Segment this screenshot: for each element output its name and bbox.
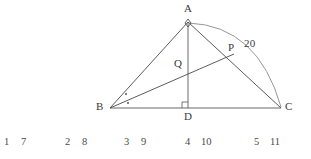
point-label-P: P (228, 42, 234, 53)
diagram-page: A B C D P Q 20 1 7 2 8 3 9 4 10 5 11 (0, 0, 311, 159)
number-item: 5 (254, 136, 259, 148)
number-item: 3 (124, 136, 129, 148)
equal-angle-dot-upper (125, 93, 127, 95)
vertex-label-D: D (184, 111, 192, 122)
arc-length-label: 20 (244, 38, 255, 49)
number-item: 1 (4, 136, 9, 148)
vertex-label-A: A (184, 3, 192, 14)
number-item: 4 (185, 136, 190, 148)
number-item: 8 (82, 136, 87, 148)
vertex-label-C: C (285, 101, 293, 112)
number-item: 9 (141, 136, 146, 148)
number-item: 11 (270, 136, 280, 148)
equal-angle-dot-lower (127, 102, 129, 104)
number-item: 2 (65, 136, 70, 148)
number-item: 7 (21, 136, 26, 148)
point-label-Q: Q (174, 58, 182, 69)
cevian-BP-line (110, 54, 234, 108)
bottom-number-row: 1 7 2 8 3 9 4 10 5 11 (0, 136, 311, 156)
right-angle-marker-at-D (182, 102, 188, 108)
number-item: 10 (201, 136, 212, 148)
side-AC-line (188, 22, 281, 108)
vertex-label-B: B (96, 101, 104, 112)
